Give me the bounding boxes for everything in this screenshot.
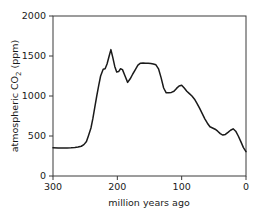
chart-background bbox=[0, 0, 264, 216]
co2-line-chart-figure: 0500100015002000 3002001000 million year… bbox=[0, 0, 264, 216]
chart-canvas: 0500100015002000 3002001000 million year… bbox=[0, 0, 264, 216]
y-tick-label: 0 bbox=[40, 170, 46, 181]
x-axis-title: million years ago bbox=[108, 197, 190, 208]
y-tick-label: 1500 bbox=[22, 50, 46, 61]
y-axis-title-prefix: atmospheric CO bbox=[9, 76, 20, 152]
x-tick-label: 100 bbox=[173, 181, 191, 192]
x-tick-label: 300 bbox=[44, 181, 62, 192]
y-tick-label: 2000 bbox=[22, 10, 46, 21]
y-tick-label: 500 bbox=[28, 130, 46, 141]
x-tick-label: 0 bbox=[243, 181, 249, 192]
y-tick-label: 1000 bbox=[22, 90, 46, 101]
y-axis-title-suffix: (ppm) bbox=[9, 40, 20, 72]
x-tick-label: 200 bbox=[108, 181, 126, 192]
